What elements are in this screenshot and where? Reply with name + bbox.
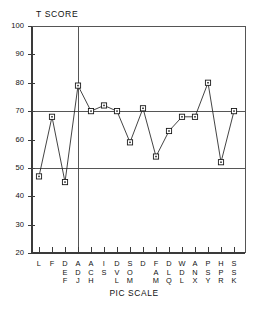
x-tick-label: F [50,259,55,268]
data-point-center [103,105,105,107]
y-tick-label: 20 [16,248,24,257]
x-tick-label: FAM [153,259,159,285]
x-tick-label: WDL [178,259,185,285]
data-point-center [64,181,66,183]
data-point-center [129,142,131,144]
x-tick-label: D [140,259,146,268]
data-point-center [77,85,79,87]
data-point-center [38,176,40,178]
y-tick-label: 50 [16,163,24,172]
pic-profile-chart: T SCORE 100 90 80 70 60 50 40 30 20 [0,0,257,313]
x-tick-label: IS [101,259,106,277]
x-tick-label: SOM [127,259,133,285]
x-tick-label: PSY [205,259,210,285]
chart-canvas: T SCORE 100 90 80 70 60 50 40 30 20 [0,0,257,313]
y-tick-label: 100 [11,21,24,30]
data-point-center [194,116,196,118]
y-axis-title: T SCORE [36,9,78,19]
data-point-center [233,110,235,112]
x-tick-label: DEF [62,259,68,285]
plot-frame [32,26,245,253]
y-tick-label: 40 [16,191,24,200]
y-tick-label: 70 [16,106,24,115]
x-axis-ticks [39,247,234,253]
y-tick-label: 30 [16,220,24,229]
x-tick-label: ANX [192,259,198,285]
data-point-center [51,116,53,118]
data-point-center [142,108,144,110]
x-tick-label: ACH [88,259,94,285]
y-axis-tick-labels: 100 90 80 70 60 50 40 30 20 [11,21,24,257]
data-point-center [181,116,183,118]
y-tick-label: 90 [16,49,24,58]
data-point-center [168,130,170,132]
data-point-center [220,161,222,163]
x-tick-label: SSK [231,259,236,285]
profile-line [39,83,234,182]
x-axis-tick-labels: L F DEF ADJ ACH IS DVL SOM D FAM DLQ WDL… [37,259,237,285]
x-tick-label: L [37,259,41,268]
y-tick-label: 80 [16,78,24,87]
y-tick-label: 60 [16,135,24,144]
data-point-center [116,110,118,112]
x-tick-label: HPR [218,259,224,285]
x-tick-label: ADJ [75,259,81,285]
x-tick-label: DLQ [166,259,172,285]
data-point-center [90,110,92,112]
data-point-center [207,82,209,84]
x-tick-label: DVL [114,259,120,285]
data-point-center [155,156,157,158]
x-axis-title: PIC SCALE [109,288,158,298]
